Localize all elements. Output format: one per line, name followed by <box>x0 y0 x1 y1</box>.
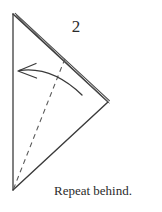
upper-right-edge-line-middle <box>15 13 109 100</box>
upper-right-edge-line-inner <box>16 16 109 103</box>
valley-fold-dashed-line <box>14 56 67 189</box>
origami-step-figure: 2 Repeat behind. <box>0 0 162 212</box>
step-number-label: 2 <box>64 17 88 37</box>
caption-text: Repeat behind. <box>54 183 132 199</box>
lower-right-edge-line <box>13 102 108 190</box>
fold-arrow-shaft <box>20 70 83 95</box>
